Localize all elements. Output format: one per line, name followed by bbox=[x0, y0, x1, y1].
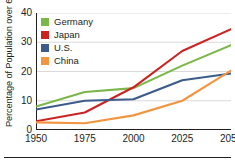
legend-swatch-japan bbox=[41, 31, 49, 39]
x-tick-label: 2000 bbox=[112, 133, 156, 144]
x-tick-label: 2025 bbox=[160, 133, 204, 144]
legend-item-germany[interactable]: Germany bbox=[41, 15, 113, 28]
legend-item-label: China bbox=[54, 56, 79, 66]
y-tick-label: 20 bbox=[10, 67, 32, 77]
legend-item-japan[interactable]: Japan bbox=[41, 28, 113, 41]
y-tick-label: 40 bbox=[10, 8, 32, 18]
legend-item-label: U.S. bbox=[54, 43, 72, 53]
y-tick-label: 30 bbox=[10, 37, 32, 47]
legend-item-us[interactable]: U.S. bbox=[41, 41, 113, 54]
x-axis-tick-labels: 19501975200020252050 bbox=[36, 133, 231, 147]
legend-swatch-china bbox=[41, 57, 49, 65]
x-tick-label: 1950 bbox=[14, 133, 58, 144]
legend-swatch-germany bbox=[41, 18, 49, 26]
y-tick-label: 10 bbox=[10, 96, 32, 106]
x-tick-label: 2050 bbox=[209, 133, 235, 144]
legend-item-china[interactable]: China bbox=[41, 54, 113, 67]
bottom-rule bbox=[4, 157, 231, 158]
legend-item-label: Germany bbox=[54, 17, 93, 27]
line-chart: Percentage of Population over 65 0102030… bbox=[0, 0, 235, 165]
legend-swatch-us bbox=[41, 44, 49, 52]
legend: GermanyJapanU.S.China bbox=[41, 15, 113, 67]
series-line-us bbox=[36, 74, 231, 110]
legend-item-label: Japan bbox=[54, 30, 80, 40]
x-tick-label: 1975 bbox=[63, 133, 107, 144]
